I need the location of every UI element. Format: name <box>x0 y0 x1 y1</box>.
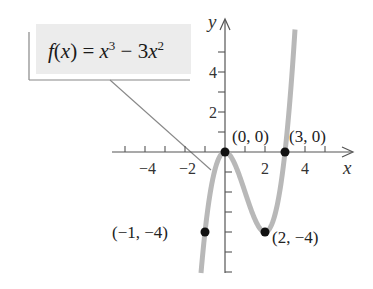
function-graph: f(x) = x3 − 3x2 −4 −2 2 4 2 4 y x (0, 0)… <box>0 0 373 289</box>
x-tick-label: −4 <box>139 160 156 177</box>
y-axis-label: y <box>206 11 217 32</box>
x-tick-label: 4 <box>301 160 309 177</box>
function-label: f(x) = x3 − 3x2 <box>48 38 164 63</box>
x-tick-label: 2 <box>261 160 269 177</box>
point-label-2-neg4: (2, −4) <box>272 228 318 247</box>
x-tick-label: −2 <box>179 160 196 177</box>
y-tick-label: 2 <box>209 104 217 121</box>
point-label-origin: (0, 0) <box>232 127 269 146</box>
point-label-3-0: (3, 0) <box>289 127 326 146</box>
x-axis-label: x <box>342 157 352 178</box>
point-label-neg1-neg4: (−1, −4) <box>112 223 168 242</box>
callout-pointer-line <box>110 80 211 170</box>
point-3-0 <box>281 148 290 157</box>
key-points: (0, 0) (3, 0) (−1, −4) (2, −4) <box>112 127 326 247</box>
point-neg1-neg4 <box>201 228 210 237</box>
point-2-neg4 <box>261 228 270 237</box>
point-origin <box>221 148 230 157</box>
y-tick-label: 4 <box>209 64 217 81</box>
function-callout: f(x) = x3 − 3x2 <box>29 24 211 170</box>
